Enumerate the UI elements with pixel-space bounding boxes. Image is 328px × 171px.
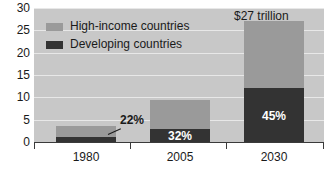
bar-segment-developing-2005: 32% <box>150 129 210 142</box>
bar-group-2030: 45% <box>244 21 304 142</box>
x-axis-label-1980: 1980 <box>73 150 100 164</box>
x-axis-line <box>34 142 324 143</box>
x-tick-mark-0 <box>34 143 35 149</box>
percent-label-2005: 32% <box>150 130 210 143</box>
y-tick-label-25: 25 <box>4 24 30 36</box>
bar-group-2005: 32% <box>150 100 210 142</box>
bar-segment-high-income-2005 <box>150 100 210 129</box>
x-tick-mark-1 <box>130 143 131 149</box>
plot-area: High-income countries Developing countri… <box>34 8 324 142</box>
x-tick-mark-3 <box>323 143 324 149</box>
y-tick-label-15: 15 <box>4 69 30 81</box>
legend: High-income countries Developing countri… <box>46 19 189 55</box>
y-tick-label-10: 10 <box>4 91 30 103</box>
bar-segment-high-income-2030 <box>244 21 304 88</box>
y-tick-label-30: 30 <box>4 2 30 14</box>
bar-segment-developing-2030: 45% <box>244 88 304 142</box>
x-tick-mark-2 <box>226 143 227 149</box>
y-tick-label-20: 20 <box>4 47 30 59</box>
x-axis-label-2005: 2005 <box>167 150 194 164</box>
legend-swatch-high-income <box>46 23 63 31</box>
y-axis: 30 25 20 15 10 5 0 <box>0 0 30 171</box>
percent-label-1980: 22% <box>120 114 144 127</box>
y-tick-label-5: 5 <box>4 114 30 126</box>
legend-label-developing: Developing countries <box>70 38 182 51</box>
legend-swatch-developing <box>46 41 63 49</box>
stacked-bar-chart: High-income countries Developing countri… <box>0 0 328 171</box>
legend-label-high-income: High-income countries <box>70 20 189 33</box>
legend-item-high-income: High-income countries <box>46 19 189 34</box>
bar-segment-high-income-1980 <box>56 126 116 137</box>
x-axis-label-2030: 2030 <box>261 150 288 164</box>
y-tick-label-0: 0 <box>4 136 30 148</box>
percent-label-2030: 45% <box>244 110 304 123</box>
legend-item-developing: Developing countries <box>46 37 189 52</box>
